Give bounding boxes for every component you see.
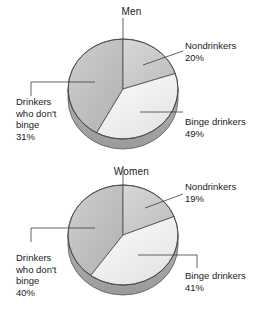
- callout-women-nondrinkers: Nondrinkers 19%: [185, 181, 236, 204]
- callout-men-binge: Binge drinkers 49%: [185, 116, 246, 139]
- callout-women-dontbinge: Drinkers who don't binge 40%: [16, 252, 56, 298]
- pie-chart-figure: Men: [0, 0, 263, 319]
- callout-women-binge: Binge drinkers 41%: [185, 270, 246, 293]
- chart-men: Men: [0, 0, 263, 159]
- callout-men-dontbinge: Drinkers who don't binge 31%: [16, 96, 56, 142]
- callout-men-nondrinkers: Nondrinkers 20%: [185, 40, 236, 63]
- chart-women: Women: [0, 160, 263, 319]
